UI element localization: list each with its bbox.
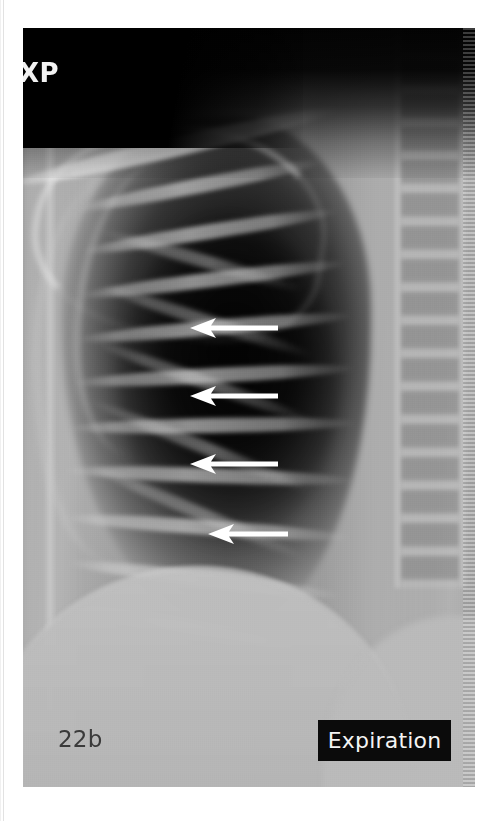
page-margin-rule-outer <box>0 0 1 821</box>
supraclavicular-dark-band <box>23 28 303 148</box>
respiratory-phase-badge: Expiration <box>318 720 451 761</box>
annotation-arrow-icon <box>190 453 278 475</box>
annotation-arrow-icon <box>190 317 278 339</box>
annotation-arrow-icon <box>208 523 288 545</box>
chest-radiograph: XP 22b Expiration <box>23 28 475 787</box>
page-margin-rule <box>3 0 4 821</box>
figure-page: XP 22b Expiration <box>0 0 499 821</box>
figure-number-label: 22b <box>58 728 102 751</box>
xp-marker-label: XP <box>23 60 59 86</box>
annotation-arrow-icon <box>190 385 278 407</box>
respiratory-phase-label: Expiration <box>328 730 442 752</box>
